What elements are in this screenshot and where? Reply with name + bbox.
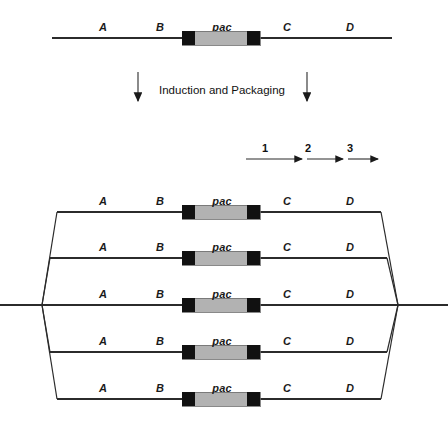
segment-label-c: C <box>283 288 291 300</box>
segment-label-d: D <box>346 241 354 253</box>
packaging-number-2: 2 <box>305 142 311 154</box>
segment-label-c: C <box>283 195 291 207</box>
segment-label-d: D <box>346 195 354 207</box>
figure-caption <box>0 419 448 428</box>
segment-label-b: B <box>156 382 164 394</box>
segment-label-pac: pac <box>212 288 232 300</box>
segment-label-d: D <box>346 288 354 300</box>
segment-label-pac: pac <box>212 335 232 347</box>
segment-label-b: B <box>156 288 164 300</box>
segment-label-d: D <box>346 335 354 347</box>
packaging-number-1: 1 <box>262 142 268 154</box>
segment-label-c: C <box>283 241 291 253</box>
segment-label-c: C <box>283 382 291 394</box>
segment-label-d: D <box>346 382 354 394</box>
segment-label-pac: pac <box>212 241 232 253</box>
segment-label-pac: pac <box>212 382 232 394</box>
segment-label-c: C <box>283 335 291 347</box>
segment-label-b: B <box>156 195 164 207</box>
segment-label-a: A <box>99 382 107 394</box>
segment-label-a: A <box>99 288 107 300</box>
segment-label-a: A <box>99 335 107 347</box>
segment-label-a: A <box>99 241 107 253</box>
segment-label-b: B <box>156 241 164 253</box>
diagram-vector-layer <box>0 0 448 428</box>
segment-label-pac: pac <box>212 195 232 207</box>
packaging-number-3: 3 <box>347 142 353 154</box>
induction-and-packaging-label: Induction and Packaging <box>159 84 285 96</box>
segment-label-a: A <box>99 195 107 207</box>
segment-label-b: B <box>156 335 164 347</box>
figure-canvas: ABpacCD Induction and Packaging 123 ABpa… <box>0 0 448 428</box>
